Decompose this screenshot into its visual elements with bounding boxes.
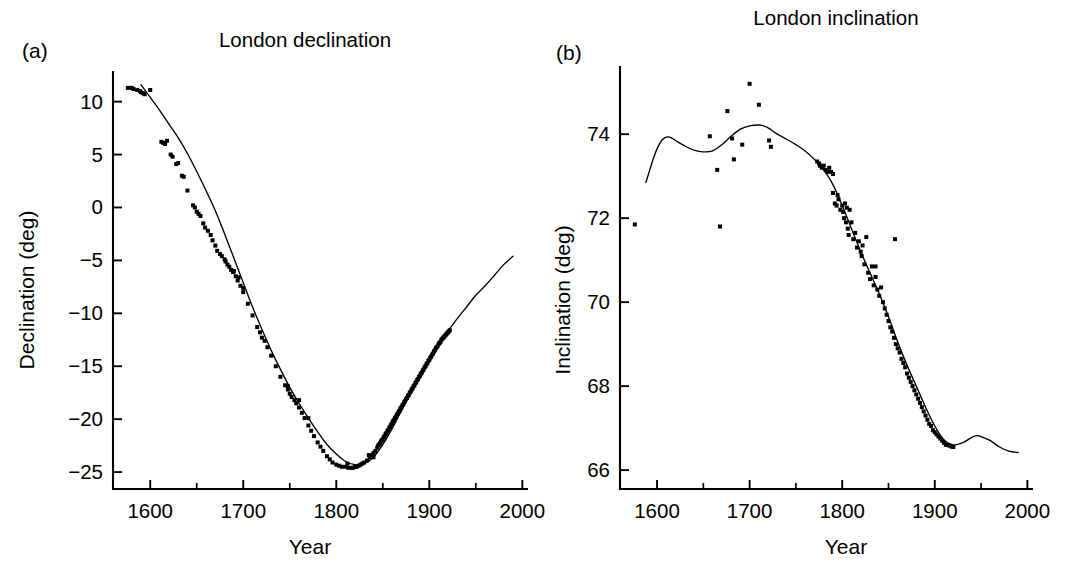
- data-point: [922, 409, 926, 413]
- data-point: [367, 453, 371, 457]
- data-point: [255, 325, 259, 329]
- data-point: [185, 189, 189, 193]
- data-point: [901, 361, 905, 365]
- data-point: [708, 134, 712, 138]
- data-point: [312, 434, 316, 438]
- data-point: [920, 405, 924, 409]
- data-point: [148, 88, 152, 92]
- panel-a-yticklabel-10: 10: [80, 90, 103, 113]
- data-point: [331, 461, 335, 465]
- panel-b-yticklabel-68: 68: [587, 374, 610, 397]
- data-point: [909, 380, 913, 384]
- panel-b-label: (b): [556, 41, 582, 64]
- panel-b-xticklabel-1700: 1700: [727, 499, 773, 522]
- data-point: [847, 233, 851, 237]
- panel-a-scatter-series: [126, 86, 452, 470]
- panel-a-yticklabel--5: −5: [80, 248, 103, 271]
- data-point: [843, 201, 847, 205]
- data-point: [769, 145, 773, 149]
- data-point: [757, 103, 761, 107]
- data-point: [718, 225, 722, 229]
- data-point: [209, 233, 213, 237]
- data-point: [201, 221, 205, 225]
- data-point: [715, 168, 719, 172]
- data-point: [748, 82, 752, 86]
- data-point: [165, 139, 169, 143]
- panel-b-xticklabel-2000: 2000: [1005, 499, 1051, 522]
- data-point: [918, 401, 922, 405]
- panel-b-svg: (b) London inclination 16001700180019002…: [546, 0, 1092, 571]
- data-point: [211, 238, 215, 242]
- data-point: [725, 109, 729, 113]
- panel-b-y-axis-title: Inclination (deg): [551, 225, 574, 374]
- data-point: [182, 175, 186, 179]
- data-point: [278, 375, 282, 379]
- data-point: [131, 87, 135, 91]
- data-point: [848, 208, 852, 212]
- data-point: [232, 269, 236, 273]
- data-point: [861, 243, 865, 247]
- panel-a-london-declination: (a) London declination 16001700180019002…: [0, 0, 546, 571]
- panel-b-plot-area: 160017001800190020007472706866: [587, 67, 1050, 522]
- data-point: [740, 143, 744, 147]
- data-point: [924, 414, 928, 418]
- panel-a-label: (a): [22, 39, 48, 62]
- panel-a-yticklabel--20: −20: [68, 407, 103, 430]
- panel-a-plot-area: 160017001800190020001050−5−10−15−20−25: [68, 72, 545, 522]
- data-point: [831, 191, 835, 195]
- data-point: [868, 277, 872, 281]
- figure-two-panel-geomagnetic: (a) London declination 16001700180019002…: [0, 0, 1092, 571]
- data-point: [835, 204, 839, 208]
- panel-b-scatter-series: [633, 82, 955, 449]
- data-point: [899, 357, 903, 361]
- data-point: [300, 411, 304, 415]
- data-point: [870, 264, 874, 268]
- data-point: [213, 244, 217, 248]
- data-point: [912, 388, 916, 392]
- data-point: [874, 275, 878, 279]
- data-point: [846, 227, 850, 231]
- data-point: [844, 220, 848, 224]
- panel-a-y-axis-title: Declination (deg): [15, 211, 38, 370]
- data-point: [905, 372, 909, 376]
- panel-b-title: London inclination: [753, 6, 918, 29]
- data-point: [842, 216, 846, 220]
- panel-a-xticklabel-1800: 1800: [313, 499, 359, 522]
- data-point: [251, 313, 255, 317]
- data-point: [827, 166, 831, 170]
- data-point: [831, 172, 835, 176]
- panel-a-xticklabel-2000: 2000: [500, 499, 546, 522]
- panel-a-xticklabel-1600: 1600: [127, 499, 173, 522]
- data-point: [907, 376, 911, 380]
- data-point: [929, 424, 933, 428]
- data-point: [893, 237, 897, 241]
- panel-b-yticklabel-72: 72: [587, 206, 610, 229]
- data-point: [258, 330, 262, 334]
- data-point: [925, 418, 929, 422]
- data-point: [914, 393, 918, 397]
- data-point: [340, 465, 344, 469]
- data-point: [633, 222, 637, 226]
- panel-a-svg: (a) London declination 16001700180019002…: [0, 0, 546, 571]
- data-point: [879, 285, 883, 289]
- panel-a-xticklabel-1700: 1700: [220, 499, 266, 522]
- data-point: [316, 440, 320, 444]
- data-point: [916, 397, 920, 401]
- data-point: [911, 384, 915, 388]
- data-point: [321, 449, 325, 453]
- data-point: [732, 157, 736, 161]
- panel-b-yticklabel-74: 74: [587, 122, 610, 145]
- data-point: [309, 429, 313, 433]
- data-point: [246, 302, 250, 306]
- panel-a-yticklabel-5: 5: [92, 143, 103, 166]
- data-point: [171, 155, 175, 159]
- data-point: [241, 290, 245, 294]
- data-point: [903, 365, 907, 369]
- panel-b-xticklabel-1800: 1800: [819, 499, 865, 522]
- data-point: [767, 138, 771, 142]
- panel-a-yticklabel--10: −10: [68, 301, 103, 324]
- data-point: [176, 161, 180, 165]
- panel-b-yticklabel-70: 70: [587, 290, 610, 313]
- panel-a-axis-spine: [113, 72, 527, 489]
- data-point: [206, 229, 210, 233]
